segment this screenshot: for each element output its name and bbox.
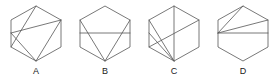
hexagon-d — [210, 0, 276, 66]
hexagon-a-chord-2 — [11, 20, 61, 33]
hexagon-c-chord-3 — [149, 33, 174, 61]
panel-b-label: B — [102, 66, 108, 76]
hexagon-figure: A B C D — [0, 0, 279, 84]
panel-c: C — [141, 0, 207, 84]
hexagon-a-chord-4 — [36, 20, 61, 61]
hexagon-a-outline — [11, 6, 61, 61]
hexagon-d-chord-3 — [218, 6, 243, 33]
hexagon-b — [72, 0, 138, 66]
hexagon-panel-row: A B C D — [0, 0, 279, 84]
hexagon-d-svg — [210, 0, 276, 66]
hexagon-a — [3, 0, 69, 66]
panel-d-label: D — [240, 66, 247, 76]
panel-d: D — [210, 0, 276, 84]
hexagon-a-chord-1 — [11, 6, 36, 47]
hexagon-b-chord-3 — [105, 20, 130, 61]
hexagon-c — [141, 0, 207, 66]
hexagon-d-outline — [218, 6, 268, 61]
hexagon-b-chord-2 — [80, 20, 105, 61]
panel-a-label: A — [33, 66, 39, 76]
hexagon-a-svg — [3, 0, 69, 66]
hexagon-d-chord-2 — [218, 20, 268, 33]
hexagon-b-svg — [72, 0, 138, 66]
panel-c-label: C — [171, 66, 178, 76]
hexagon-b-outline — [80, 6, 130, 61]
panel-a: A — [3, 0, 69, 84]
panel-b: B — [72, 0, 138, 84]
hexagon-c-svg — [141, 0, 207, 66]
hexagon-a-chord-3 — [11, 33, 36, 61]
